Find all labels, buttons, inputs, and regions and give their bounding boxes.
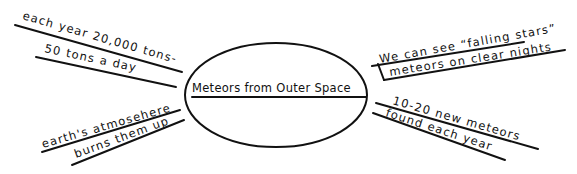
branch-upper-right-connector xyxy=(378,64,384,80)
center-node-ellipse xyxy=(185,43,367,147)
center-node-label: Meteors from Outer Space xyxy=(192,81,351,95)
mind-map-diagram: Meteors from Outer Space each year 20,00… xyxy=(0,0,577,174)
